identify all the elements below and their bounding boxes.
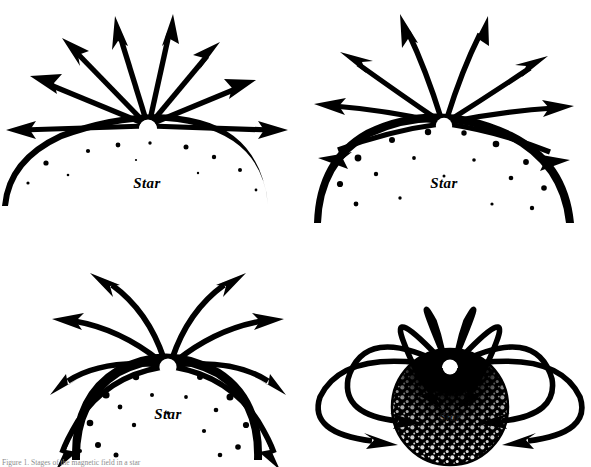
star-label-1: Star (133, 175, 160, 191)
field-line-3-5 (172, 273, 246, 359)
star-label-2: Star (430, 175, 457, 191)
field-line-2-4 (400, 14, 441, 118)
panel-4-canvas: Star (310, 275, 591, 460)
field-lines-1 (6, 14, 288, 139)
star-label-3: Star (154, 406, 181, 422)
panel-2-canvas: Star (296, 8, 591, 223)
field-origin-2 (436, 118, 452, 134)
field-origin-3 (159, 358, 176, 375)
field-line-2-5 (447, 16, 489, 118)
field-line-3-4 (90, 273, 164, 359)
panel-4-closed-loop-field: Star (310, 275, 591, 460)
panel-3-canvas: Star (20, 255, 315, 460)
field-line-1-2 (30, 74, 145, 124)
figure-caption: Figure 1. Stages of the magnetic field i… (2, 458, 587, 467)
panel-2-slightly-curved-field: Star (296, 8, 591, 223)
star-label-4: Star (439, 410, 461, 424)
panel-1-canvas: Star (0, 8, 295, 223)
panel-3-strongly-curved-field: Star (20, 255, 315, 460)
figure-root: Star (0, 0, 591, 467)
panel-1-open-radial-field: Star (0, 8, 295, 223)
